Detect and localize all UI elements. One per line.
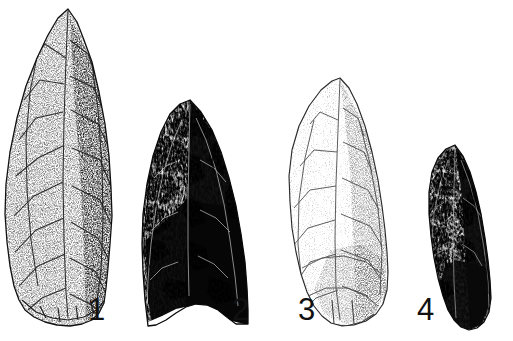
projectile-point-3 [0, 0, 513, 341]
artifact-label-1: 1 [88, 294, 105, 325]
lithic-points-plate: 1 2 3 4 [0, 0, 513, 341]
artifact-label-2: 2 [232, 294, 249, 325]
projectile-point-4 [0, 0, 513, 341]
artifact-label-4: 4 [417, 294, 434, 325]
projectile-point-2 [0, 0, 513, 341]
artifact-label-3: 3 [298, 294, 315, 325]
projectile-point-1 [0, 0, 513, 341]
